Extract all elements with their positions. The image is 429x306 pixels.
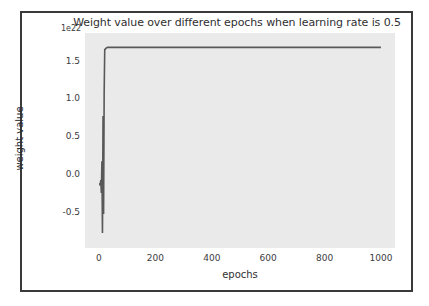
x-tick-label: 600 — [243, 253, 293, 263]
x-tick-label: 1000 — [356, 253, 406, 263]
y-axis-tick-labels: 1.5 1.0 0.5 0.0 -0.5 — [48, 33, 80, 248]
x-tick-label: 0 — [74, 253, 124, 263]
x-axis-label: epochs — [85, 269, 395, 280]
y-tick-label: -0.5 — [50, 207, 80, 217]
chart-figure: Weight value over different epochs when … — [0, 0, 429, 306]
y-tick-label: 1.0 — [50, 93, 80, 103]
x-axis-tick-labels: 0 200 400 600 800 1000 — [85, 253, 395, 267]
y-axis-offset-label: 1e22 — [61, 24, 81, 33]
y-tick-label: 0.0 — [50, 169, 80, 179]
x-tick-label: 200 — [130, 253, 180, 263]
data-series-weight-value — [85, 33, 395, 248]
plot-area — [85, 33, 395, 248]
x-tick-label: 800 — [300, 253, 350, 263]
y-axis-label: weight value — [14, 94, 25, 184]
y-tick-label: 0.5 — [50, 131, 80, 141]
weight-value-line — [99, 47, 381, 233]
y-tick-label: 1.5 — [50, 56, 80, 66]
chart-title: Weight value over different epochs when … — [72, 16, 402, 29]
x-tick-label: 400 — [187, 253, 237, 263]
